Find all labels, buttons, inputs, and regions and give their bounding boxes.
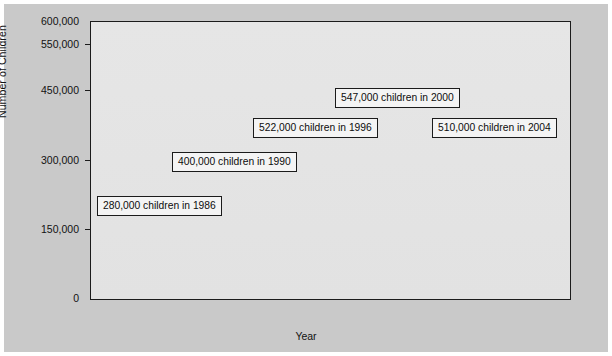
y-tick-label: 0: [73, 292, 79, 304]
chart-figure: Number of Children Year 600,000550,00045…: [0, 0, 612, 356]
y-tick-label: 600,000: [41, 15, 79, 27]
annotation-1996: 522,000 children in 1996: [253, 118, 378, 138]
y-tick-label: 550,000: [41, 38, 79, 50]
annotation-2004: 510,000 children in 2004: [432, 118, 557, 138]
page-edge-right: [608, 0, 612, 356]
plot-area: [90, 21, 571, 300]
annotation-1990: 400,000 children in 1990: [172, 152, 297, 172]
area-series: [91, 22, 570, 299]
y-tick-label: 300,000: [41, 154, 79, 166]
x-axis-title: Year: [0, 330, 612, 342]
y-tick-label: 150,000: [41, 223, 79, 235]
annotation-1986: 280,000 children in 1986: [97, 196, 222, 216]
y-axis-title: Number of Children: [0, 0, 8, 118]
annotation-2000: 547,000 children in 2000: [335, 88, 460, 108]
y-tick-label: 450,000: [41, 84, 79, 96]
